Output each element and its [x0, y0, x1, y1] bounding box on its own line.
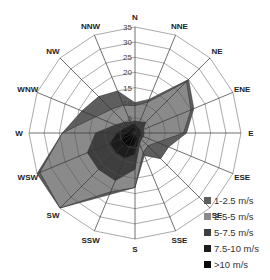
legend-label: 1-2.5 m/s	[214, 195, 254, 206]
tick-label: 15	[123, 84, 132, 93]
tick-label: 10	[123, 99, 132, 108]
direction-label: E	[248, 129, 254, 138]
series-polygons	[37, 80, 194, 209]
direction-label: SSW	[81, 236, 100, 245]
tick-label: 25	[123, 53, 132, 62]
direction-label: NNE	[171, 22, 189, 31]
legend-item: 1-2.5 m/s	[204, 192, 259, 208]
legend-swatch-icon	[204, 261, 211, 268]
legend-item: >10 m/s	[204, 256, 259, 272]
legend-label: 7.5-10 m/s	[214, 243, 259, 254]
direction-label: ESE	[234, 173, 251, 182]
legend-swatch-icon	[204, 229, 211, 236]
direction-label: SSE	[171, 236, 188, 245]
legend-label: 5-7.5 m/s	[214, 227, 254, 238]
direction-label: WSW	[18, 173, 39, 182]
direction-label: NNW	[81, 22, 101, 31]
direction-label: NW	[46, 47, 60, 56]
direction-label: SW	[47, 211, 60, 220]
direction-label: N	[132, 13, 138, 22]
legend-swatch-icon	[204, 213, 211, 220]
tick-label: 35	[123, 23, 132, 32]
tick-label: 30	[123, 38, 132, 47]
legend-swatch-icon	[204, 197, 211, 204]
direction-label: NE	[211, 47, 223, 56]
tick-label: 5	[128, 114, 133, 123]
legend-item: 5-7.5 m/s	[204, 224, 259, 240]
tick-label: 20	[123, 68, 132, 77]
direction-label: ENE	[234, 85, 251, 94]
legend-label: 2.5-5 m/s	[214, 211, 254, 222]
legend-swatch-icon	[204, 245, 211, 252]
legend-item: 2.5-5 m/s	[204, 208, 259, 224]
direction-label: S	[132, 245, 138, 254]
direction-label: WNW	[17, 85, 38, 94]
direction-label: W	[15, 129, 23, 138]
legend-item: 7.5-10 m/s	[204, 240, 259, 256]
legend: 1-2.5 m/s 2.5-5 m/s 5-7.5 m/s 7.5-10 m/s…	[204, 192, 259, 272]
legend-label: >10 m/s	[214, 259, 248, 270]
